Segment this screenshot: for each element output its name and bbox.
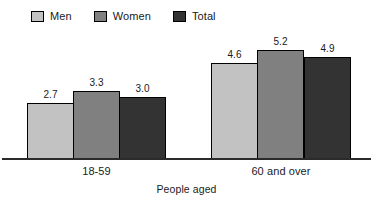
x-axis-line <box>2 158 371 160</box>
bar-value-women-60-and-over: 5.2 <box>257 37 304 47</box>
bar-women-60-and-over <box>257 50 304 159</box>
bar-total-60-and-over <box>304 57 351 159</box>
bar-men-60-and-over <box>211 63 258 159</box>
bar-men-18-59 <box>27 103 74 159</box>
bar-value-total-60-and-over: 4.9 <box>304 44 351 54</box>
x-axis-title: People aged <box>0 183 373 195</box>
bar-value-women-18-59: 3.3 <box>73 78 120 88</box>
x-axis-category-label-60-and-over: 60 and over <box>211 165 351 177</box>
bar-value-total-18-59: 3.0 <box>119 84 166 94</box>
bar-chart: Men Women Total 2.7 3.3 3.0 4.6 5.2 4.9 … <box>0 0 373 200</box>
bar-value-men-60-and-over: 4.6 <box>211 50 258 60</box>
bar-total-18-59 <box>119 97 166 159</box>
x-axis-category-label-18-59: 18-59 <box>27 165 166 177</box>
bar-value-men-18-59: 2.7 <box>27 90 74 100</box>
bar-women-18-59 <box>73 91 120 159</box>
